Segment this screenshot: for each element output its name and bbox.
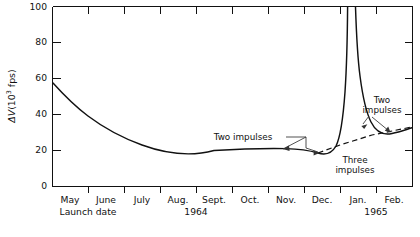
arrowhead-icon-3 xyxy=(361,124,367,129)
x-tick-label-aug: Aug. xyxy=(168,194,189,205)
y-axis-tick-labels: 0 20 40 60 80 100 xyxy=(29,1,47,191)
curve-two-impulses-left xyxy=(53,7,348,154)
year-label-1964: 1964 xyxy=(184,206,208,217)
annotation-two-impulses-left-leaders xyxy=(283,137,320,156)
leader-line-4 xyxy=(363,116,369,124)
x-axis-tick-labels: May June July Aug. Sept. Oct. Nov. Dec. … xyxy=(61,194,404,205)
x-axis-ticks-top xyxy=(89,7,377,14)
y-axis-title-close: fps) xyxy=(6,69,17,90)
x-tick-label-july: July xyxy=(133,194,151,205)
chart-svg: 0 20 40 60 80 100 ΔV(103 fps) xyxy=(0,0,420,237)
y-axis-title-text: ΔV(103 fps) xyxy=(5,69,17,123)
y-axis-title: ΔV(103 fps) xyxy=(5,69,17,123)
x-tick-label-sept: Sept. xyxy=(202,194,226,205)
annotation-three-impulses: Three impulses xyxy=(335,155,375,175)
y-axis-ticks-right xyxy=(405,43,413,151)
x-tick-label-june: June xyxy=(95,194,116,205)
y-axis-title-open: (10 xyxy=(6,94,17,110)
x-tick-label-nov: Nov. xyxy=(276,194,296,205)
curve-three-impulses xyxy=(318,127,412,153)
annotation-two-impulses-right-line2: impulses xyxy=(362,105,402,115)
x-tick-label-dec: Dec. xyxy=(312,194,333,205)
annotation-two-impulses-left-label: Two impulses xyxy=(213,132,273,142)
annotation-two-impulses-right: Two impulses xyxy=(361,95,402,133)
y-axis-ticks xyxy=(53,7,61,187)
y-tick-label-60: 60 xyxy=(35,72,47,83)
y-tick-label-20: 20 xyxy=(35,144,47,155)
x-tick-label-feb: Feb. xyxy=(384,194,403,205)
y-axis-title-delta: Δ xyxy=(6,116,17,123)
y-tick-label-40: 40 xyxy=(35,108,47,119)
y-tick-label-0: 0 xyxy=(41,180,47,191)
x-axis-caption: Launch date xyxy=(60,206,117,217)
x-axis-year-labels: 1964 1965 xyxy=(184,206,388,217)
y-tick-label-100: 100 xyxy=(29,1,47,12)
x-tick-label-jan: Jan. xyxy=(348,194,366,205)
x-tick-label-may: May xyxy=(61,194,81,205)
x-tick-label-oct: Oct. xyxy=(241,194,260,205)
x-axis-ticks xyxy=(89,187,377,193)
annotation-three-impulses-line1: Three xyxy=(341,155,367,165)
year-label-1965: 1965 xyxy=(364,206,388,217)
y-tick-label-80: 80 xyxy=(35,36,47,47)
chart-figure: 0 20 40 60 80 100 ΔV(103 fps) xyxy=(0,0,420,237)
annotation-two-impulses-right-line1: Two xyxy=(373,95,391,105)
annotation-three-impulses-line2: impulses xyxy=(335,165,375,175)
